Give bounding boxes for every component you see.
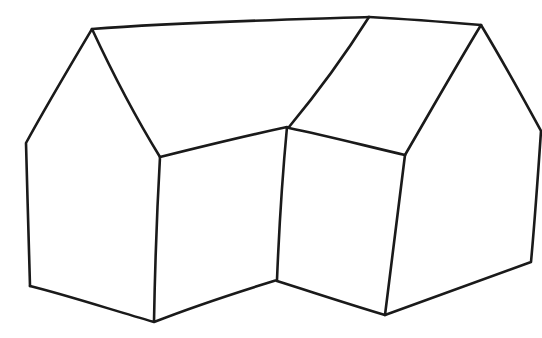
house-drawing [26, 17, 541, 322]
right-roof-edge [405, 25, 481, 155]
right-roof-ridge [369, 17, 481, 25]
right-gable-end [385, 25, 541, 315]
roof-valley [289, 17, 369, 127]
right-front-wall [277, 155, 405, 315]
left-roof-ridge [92, 17, 369, 29]
left-gable-end [26, 29, 160, 286]
house-sketch [0, 0, 542, 338]
right-roof-eave [289, 128, 405, 155]
